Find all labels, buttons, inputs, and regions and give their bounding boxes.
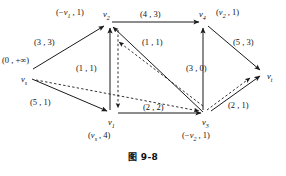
edge-label-vs-v2: (3 , 3) xyxy=(34,38,55,47)
edge-label-v1-v2: (1 , 1) xyxy=(76,64,97,73)
node-v3: v3 xyxy=(202,117,209,129)
node-vt: vt xyxy=(267,71,272,83)
node-v2: v2 xyxy=(103,9,110,21)
node-v1: v1 xyxy=(108,117,115,129)
augment-edge-v3-v2 xyxy=(119,42,203,106)
figure-caption: 图 9-8 xyxy=(0,150,286,163)
edge-label-v1-v3: (2 , 2) xyxy=(143,103,164,112)
node-label-vs: (0 , +∞) xyxy=(2,56,29,65)
edge-label-v3-v2: (1 , 1) xyxy=(142,38,163,47)
node-label-v2: (−v1 , 1) xyxy=(56,8,84,19)
node-v4: v4 xyxy=(199,9,206,21)
edge-label-v3-v4: (3 , 0) xyxy=(186,64,207,73)
node-label-v4: (v2 , 1) xyxy=(216,8,239,19)
node-vs: vs xyxy=(21,74,27,86)
edge-v4-vt xyxy=(208,26,260,70)
node-label-v1: (vs , 4) xyxy=(88,131,110,142)
node-label-v3: (−v2 , 1) xyxy=(182,131,210,142)
edge-label-v4-vt: (5 , 3) xyxy=(233,38,254,47)
edge-label-v3-vt: (2 , 1) xyxy=(228,101,249,110)
edge-label-v2-v4: (4 , 3) xyxy=(140,10,161,19)
edge-label-vs-v1: (5 , 1) xyxy=(30,98,51,107)
